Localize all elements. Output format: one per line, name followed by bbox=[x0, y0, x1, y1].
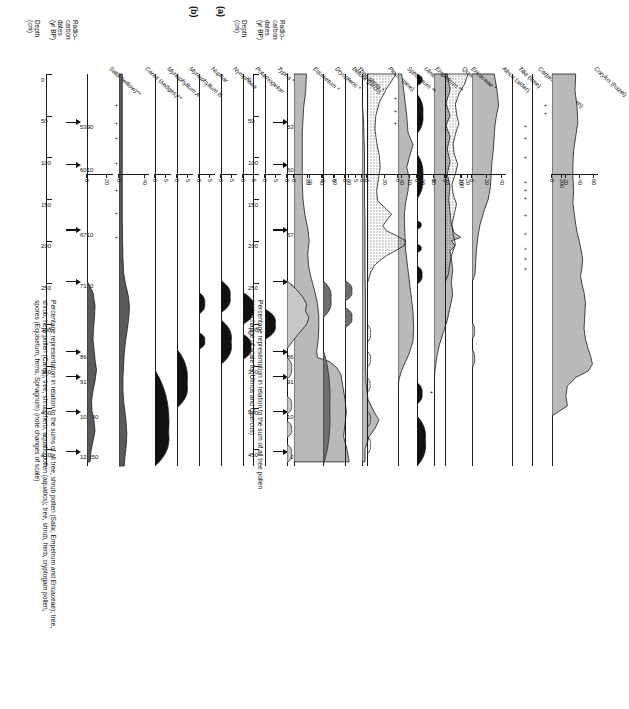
scale-tick-label: 40 bbox=[399, 179, 405, 185]
scale-tick-label: 40 bbox=[577, 179, 583, 185]
depth-tick-label-b: 450 bbox=[41, 452, 51, 458]
scale-tick-label: 20 bbox=[465, 179, 471, 185]
depth-tick-label-b: 300 bbox=[41, 327, 51, 333]
taxon-sphagnum-b bbox=[367, 0, 411, 474]
scale-tick-label: 0 bbox=[284, 179, 290, 182]
scale-bracket bbox=[287, 174, 317, 175]
depth-tick-b bbox=[47, 449, 52, 450]
depth-tick-b bbox=[47, 366, 52, 367]
depth-tick-b bbox=[47, 324, 52, 325]
scale-bracket bbox=[155, 174, 171, 175]
scale-tick-label: 0 bbox=[218, 179, 224, 182]
scale-tick-label: 0 bbox=[174, 179, 180, 182]
scale-tick-label: 60 bbox=[591, 179, 597, 185]
depth-axis-title-b: Depth (cm) bbox=[26, 20, 41, 37]
depth-tick-b bbox=[47, 199, 52, 200]
presence-plus-mark: + bbox=[523, 180, 529, 184]
panel-b-caption: Percentage representation in relation to… bbox=[32, 300, 57, 630]
scale-tick-label: 20 bbox=[382, 179, 388, 185]
scale-tick-label: 0 bbox=[549, 179, 555, 182]
presence-plus-mark: + bbox=[543, 104, 549, 108]
presence-plus-mark: + bbox=[523, 267, 529, 271]
scale-tick-label: 0 bbox=[414, 179, 420, 182]
scale-tick-label: 20 bbox=[563, 179, 569, 185]
scale-tick-label: 0 bbox=[196, 179, 202, 182]
scale-bracket bbox=[199, 174, 215, 175]
scale-bracket bbox=[265, 174, 281, 175]
scale-tick-label: 0 bbox=[364, 179, 370, 182]
panel-b-shrub-herb-pollen: (b) Depth (cm) Radio– carbon dates (yr B… bbox=[0, 0, 207, 709]
depth-tick-label-b: 100 bbox=[41, 160, 51, 166]
scale-tick-label: 20 bbox=[484, 179, 490, 185]
taxon-corylus-a bbox=[552, 0, 598, 474]
scale-tick-label: 5 bbox=[331, 179, 337, 182]
scale-bracket bbox=[445, 174, 475, 175]
depth-tick-label-b: 200 bbox=[41, 243, 51, 249]
scale-tick-label: 0 bbox=[320, 179, 326, 182]
scale-tick-label: 5 bbox=[163, 179, 169, 182]
scale-bracket bbox=[243, 174, 259, 175]
depth-tick-label-b: 350 bbox=[41, 369, 51, 375]
depth-tick-b bbox=[47, 283, 52, 284]
depth-tick-label-b: 50 bbox=[41, 118, 48, 124]
scale-tick-label: 0 bbox=[262, 179, 268, 182]
depth-tick-b bbox=[47, 241, 52, 242]
scale-bracket bbox=[87, 174, 113, 175]
presence-plus-mark: + bbox=[523, 197, 529, 201]
scale-tick-label: 0 bbox=[116, 179, 122, 182]
depth-tick-label-b: 400 bbox=[41, 410, 51, 416]
depth-tick-b bbox=[47, 408, 52, 409]
scale-tick-label: 5 bbox=[207, 179, 213, 182]
presence-plus-mark: + bbox=[523, 214, 529, 218]
scale-bracket bbox=[552, 174, 598, 175]
scale-tick-label: 20 bbox=[307, 179, 313, 185]
scale-tick-label: 0 bbox=[152, 179, 158, 182]
depth-tick-b bbox=[47, 74, 52, 75]
depth-tick-label-b: 150 bbox=[41, 202, 51, 208]
presence-plus-mark: + bbox=[523, 189, 529, 193]
scale-tick-label: 0 bbox=[84, 179, 90, 182]
scale-bracket bbox=[345, 174, 361, 175]
depth-tick-label-b: 250 bbox=[41, 285, 51, 291]
scale-tick-label: 0 bbox=[240, 179, 246, 182]
scale-tick-label: 0 bbox=[442, 179, 448, 182]
presence-plus-mark: + bbox=[523, 232, 529, 236]
scale-bracket bbox=[177, 174, 193, 175]
presence-plus-mark: + bbox=[523, 247, 529, 251]
scale-bracket bbox=[221, 174, 237, 175]
depth-tick-label-b: 0 bbox=[41, 77, 44, 83]
scale-tick-label: 40 bbox=[499, 179, 505, 185]
presence-plus-mark: + bbox=[523, 155, 529, 159]
presence-plus-mark: + bbox=[543, 112, 549, 116]
scale-tick-label: 0 bbox=[342, 179, 348, 182]
presence-plus-mark: + bbox=[523, 137, 529, 141]
radiocarbon-title-b: Radio– carbon dates (yr BP) bbox=[49, 20, 79, 40]
scale-tick-label: 10 bbox=[431, 179, 437, 185]
scale-bracket bbox=[323, 174, 339, 175]
scale-tick-label: 5 bbox=[251, 179, 257, 182]
scale-tick-label: 5 bbox=[185, 179, 191, 182]
taxon-label-corylus: Corylus (hazel) bbox=[593, 65, 629, 98]
scale-tick-label: 5 bbox=[273, 179, 279, 182]
presence-plus-mark: + bbox=[523, 257, 529, 261]
scale-bracket bbox=[367, 174, 411, 175]
depth-tick-b bbox=[47, 116, 52, 117]
scale-tick-label: 5 bbox=[353, 179, 359, 182]
scale-tick-label: 40 bbox=[142, 179, 148, 185]
depth-tick-b bbox=[47, 157, 52, 158]
scale-bracket bbox=[119, 174, 149, 175]
scale-tick-label: 20 bbox=[104, 179, 110, 185]
presence-plus-mark: + bbox=[523, 125, 529, 129]
scale-bracket bbox=[417, 174, 439, 175]
scale-bracket bbox=[472, 174, 506, 175]
scale-tick-label: 5 bbox=[229, 179, 235, 182]
